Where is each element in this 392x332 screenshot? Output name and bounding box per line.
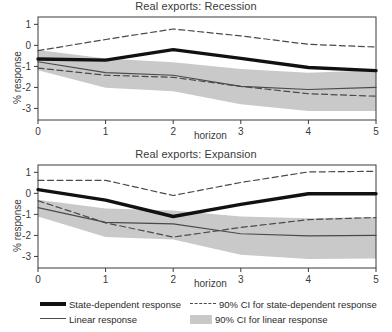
- x-tick-label: 2: [170, 126, 176, 137]
- plot-area-recession: 01234510-1-2-3horizon: [0, 0, 392, 150]
- y-tick-label: 1: [25, 167, 31, 178]
- legend-item-ci-state-dependent: 90% CI for state-dependent response: [190, 298, 377, 310]
- y-tick-label: 1: [25, 19, 31, 30]
- legend-swatch-thin-line: [40, 318, 66, 319]
- y-tick-label: 0: [25, 40, 31, 51]
- series-dashed-2: [38, 171, 376, 195]
- figure-impulse-responses: Real exports: Recession % response 01234…: [0, 0, 392, 332]
- x-tick-label: 2: [170, 274, 176, 285]
- x-axis-label: horizon: [194, 130, 227, 141]
- legend-item-ci-linear: 90% CI for linear response: [190, 313, 327, 325]
- legend-label-ci-state-dependent: 90% CI for state-dependent response: [219, 299, 377, 310]
- y-tick-label: -3: [22, 103, 31, 114]
- legend-item-linear: Linear response: [40, 313, 137, 325]
- legend: State-dependent response Linear response…: [0, 296, 392, 332]
- x-tick-label: 3: [238, 274, 244, 285]
- y-tick-label: -1: [22, 209, 31, 220]
- y-tick-label: -3: [22, 251, 31, 262]
- x-tick-label: 3: [238, 126, 244, 137]
- legend-label-state-dependent: State-dependent response: [69, 299, 181, 310]
- svg-recession: 01234510-1-2-3horizon: [0, 0, 392, 150]
- panel-recession: Real exports: Recession % response 01234…: [0, 0, 392, 150]
- y-tick-label: -2: [22, 230, 31, 241]
- legend-item-state-dependent: State-dependent response: [40, 298, 181, 310]
- x-tick-label: 1: [103, 126, 109, 137]
- x-tick-label: 4: [306, 126, 312, 137]
- y-tick-label: -2: [22, 82, 31, 93]
- x-tick-label: 1: [103, 274, 109, 285]
- x-tick-label: 0: [35, 274, 41, 285]
- legend-label-ci-linear: 90% CI for linear response: [215, 314, 327, 325]
- legend-swatch-gray-band: [190, 315, 212, 324]
- x-tick-label: 0: [35, 126, 41, 137]
- plot-area-expansion: 01234510-1-2-3horizon: [0, 148, 392, 298]
- svg-expansion: 01234510-1-2-3horizon: [0, 148, 392, 298]
- panel-expansion: Real exports: Expansion % response 01234…: [0, 148, 392, 296]
- x-tick-label: 4: [306, 274, 312, 285]
- y-tick-label: 0: [25, 188, 31, 199]
- legend-swatch-thick-line: [40, 302, 66, 306]
- legend-swatch-dashed-line: [190, 303, 216, 304]
- y-tick-label: -1: [22, 61, 31, 72]
- x-tick-label: 5: [373, 126, 379, 137]
- series-dashed-2: [38, 29, 376, 51]
- x-tick-label: 5: [373, 274, 379, 285]
- x-axis-label: horizon: [194, 278, 227, 289]
- legend-label-linear: Linear response: [69, 314, 137, 325]
